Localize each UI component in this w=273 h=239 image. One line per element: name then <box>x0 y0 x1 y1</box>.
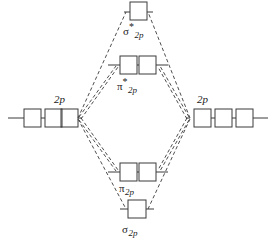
pi-subscript: 2p <box>125 187 134 197</box>
correlation-left-to-pi-star-b <box>81 67 118 119</box>
sigma-star-2p-label: σ*2p <box>123 22 143 40</box>
sigma-box-1 <box>128 200 146 218</box>
pi-star-box-2 <box>139 56 156 74</box>
left-ao-box-3 <box>61 109 78 127</box>
correlation-right-to-pi-a <box>160 120 189 171</box>
left-atomic-orbital-group <box>8 109 82 127</box>
right-ao-box-3 <box>236 109 253 127</box>
left-atomic-orbital-label: 2p <box>54 94 65 105</box>
sigma-star-subscript: 2p <box>134 30 143 40</box>
correlation-right-to-sigma <box>148 119 190 209</box>
pi-symbol: π <box>119 182 125 194</box>
correlation-right-to-pi-star-a <box>160 66 189 117</box>
pi-box-2 <box>139 163 156 181</box>
pi-star-2p-label: π*2p <box>117 77 137 95</box>
correlation-lines <box>78 12 190 209</box>
mo-level-sigma-star-2p <box>124 2 153 20</box>
left-ao-box-2 <box>45 109 62 127</box>
pi-star-box-1 <box>120 56 137 74</box>
mo-level-pi-star-2p <box>108 56 168 74</box>
pi-star-subscript: 2p <box>128 85 137 95</box>
sigma-2p-label: σ2p <box>122 224 137 238</box>
correlation-left-to-pi-a <box>79 120 116 171</box>
sigma-subscript: 2p <box>128 228 137 238</box>
right-ao-box-2 <box>215 109 232 127</box>
right-atomic-orbital-label: 2p <box>197 94 208 105</box>
correlation-left-to-pi-b <box>81 118 118 170</box>
correlation-left-to-pi-star-a <box>79 66 116 117</box>
mo-level-sigma-2p <box>120 200 154 218</box>
left-ao-box-1 <box>24 109 41 127</box>
pi-star-asterisk: * <box>123 76 128 87</box>
sigma-star-box-1 <box>130 2 147 20</box>
correlation-right-to-pi-b <box>158 118 187 170</box>
pi-box-1 <box>120 163 137 181</box>
correlation-right-to-pi-star-b <box>158 67 187 119</box>
mo-energy-level-diagram: 2p 2p σ*2p π*2p π2p σ2p <box>0 0 273 239</box>
right-ao-box-1 <box>194 109 211 127</box>
mo-level-pi-2p <box>108 163 168 181</box>
pi-2p-label: π2p <box>119 183 134 197</box>
correlation-right-to-sigma-star <box>148 12 190 118</box>
right-atomic-orbital-group <box>186 109 268 127</box>
